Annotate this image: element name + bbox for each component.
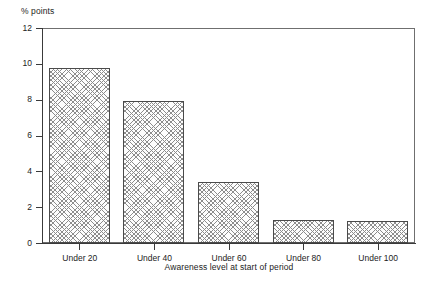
bar <box>198 182 259 243</box>
x-tick: Under 100 <box>378 244 379 250</box>
x-tick: Under 40 <box>154 244 155 250</box>
bar <box>123 101 184 243</box>
x-axis-title: Awareness level at start of period <box>42 262 416 272</box>
x-tick: Under 60 <box>229 244 230 250</box>
bar-series <box>0 0 437 284</box>
bar <box>49 68 110 243</box>
x-tick: Under 80 <box>303 244 304 250</box>
bar-chart: % points 024681012 Under 20Under 40Under… <box>0 0 437 284</box>
x-tick: Under 20 <box>79 244 80 250</box>
bar <box>347 221 408 243</box>
bar <box>273 220 334 243</box>
